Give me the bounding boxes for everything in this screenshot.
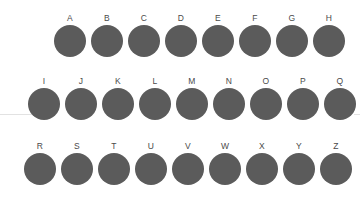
node-label: P	[300, 76, 306, 86]
diagram-canvas: ABCDEFGHIJKLMNOPQRSTUVWXYZ	[0, 0, 360, 204]
node-circle-icon[interactable]	[61, 153, 93, 185]
node-label: R	[37, 141, 43, 151]
node-circle-icon[interactable]	[287, 88, 319, 120]
node-label: Q	[337, 76, 344, 86]
node-h[interactable]: H	[313, 13, 345, 57]
node-label: H	[326, 13, 332, 23]
node-label: A	[67, 13, 73, 23]
node-circle-icon[interactable]	[239, 25, 271, 57]
node-circle-icon[interactable]	[313, 25, 345, 57]
node-label: V	[185, 141, 191, 151]
node-circle-icon[interactable]	[276, 25, 308, 57]
node-circle-icon[interactable]	[65, 88, 97, 120]
node-c[interactable]: C	[128, 13, 160, 57]
node-p[interactable]: P	[287, 76, 319, 120]
node-circle-icon[interactable]	[209, 153, 241, 185]
node-circle-icon[interactable]	[324, 88, 356, 120]
node-label: S	[74, 141, 80, 151]
node-circle-icon[interactable]	[202, 25, 234, 57]
node-circle-icon[interactable]	[98, 153, 130, 185]
node-label: J	[79, 76, 83, 86]
node-circle-icon[interactable]	[246, 153, 278, 185]
node-label: W	[221, 141, 229, 151]
node-circle-icon[interactable]	[135, 153, 167, 185]
node-k[interactable]: K	[102, 76, 134, 120]
node-circle-icon[interactable]	[250, 88, 282, 120]
node-label: D	[178, 13, 184, 23]
node-label: E	[215, 13, 221, 23]
node-label: F	[252, 13, 257, 23]
node-circle-icon[interactable]	[24, 153, 56, 185]
node-label: X	[259, 141, 265, 151]
node-w[interactable]: W	[209, 141, 241, 185]
node-l[interactable]: L	[139, 76, 171, 120]
node-u[interactable]: U	[135, 141, 167, 185]
node-circle-icon[interactable]	[320, 153, 352, 185]
node-circle-icon[interactable]	[91, 25, 123, 57]
node-i[interactable]: I	[28, 76, 60, 120]
node-label: G	[289, 13, 296, 23]
node-m[interactable]: M	[176, 76, 208, 120]
node-label: Y	[296, 141, 302, 151]
node-label: M	[188, 76, 195, 86]
node-n[interactable]: N	[213, 76, 245, 120]
node-v[interactable]: V	[172, 141, 204, 185]
node-label: C	[141, 13, 147, 23]
node-circle-icon[interactable]	[28, 88, 60, 120]
node-r[interactable]: R	[24, 141, 56, 185]
node-circle-icon[interactable]	[54, 25, 86, 57]
node-label: I	[43, 76, 46, 86]
node-label: U	[148, 141, 154, 151]
node-label: B	[104, 13, 110, 23]
node-a[interactable]: A	[54, 13, 86, 57]
node-y[interactable]: Y	[283, 141, 315, 185]
node-label: O	[263, 76, 270, 86]
node-circle-icon[interactable]	[128, 25, 160, 57]
node-circle-icon[interactable]	[283, 153, 315, 185]
node-e[interactable]: E	[202, 13, 234, 57]
node-label: N	[226, 76, 232, 86]
node-d[interactable]: D	[165, 13, 197, 57]
node-z[interactable]: Z	[320, 141, 352, 185]
node-g[interactable]: G	[276, 13, 308, 57]
node-o[interactable]: O	[250, 76, 282, 120]
node-q[interactable]: Q	[324, 76, 356, 120]
node-t[interactable]: T	[98, 141, 130, 185]
node-label: Z	[333, 141, 338, 151]
node-label: K	[115, 76, 121, 86]
node-s[interactable]: S	[61, 141, 93, 185]
node-f[interactable]: F	[239, 13, 271, 57]
node-x[interactable]: X	[246, 141, 278, 185]
node-b[interactable]: B	[91, 13, 123, 57]
node-circle-icon[interactable]	[172, 153, 204, 185]
node-circle-icon[interactable]	[102, 88, 134, 120]
node-label: T	[111, 141, 116, 151]
node-circle-icon[interactable]	[139, 88, 171, 120]
node-circle-icon[interactable]	[176, 88, 208, 120]
node-circle-icon[interactable]	[213, 88, 245, 120]
node-j[interactable]: J	[65, 76, 97, 120]
node-circle-icon[interactable]	[165, 25, 197, 57]
node-label: L	[153, 76, 158, 86]
